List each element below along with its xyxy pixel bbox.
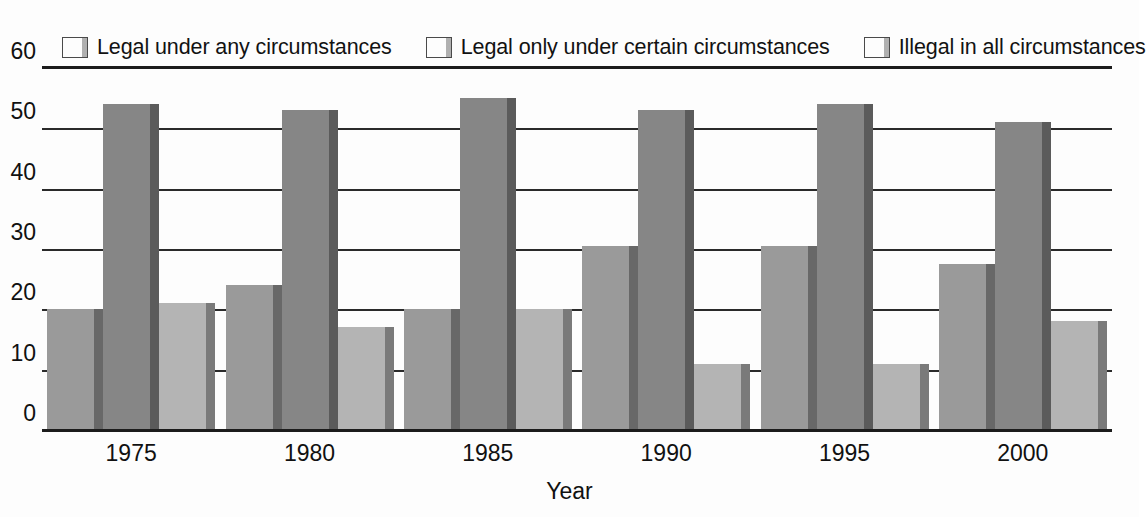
- bar-1990-series-2[interactable]: [638, 110, 694, 430]
- bar-1975-series-2[interactable]: [103, 104, 159, 430]
- legend-swatch-series-1-icon: [62, 37, 88, 58]
- bar-1985-series-2[interactable]: [460, 98, 516, 430]
- bar-2000-series-2[interactable]: [995, 122, 1051, 430]
- bar-1980-series-1[interactable]: [226, 285, 282, 430]
- bar-1995-series-1[interactable]: [761, 246, 817, 430]
- y-tick-label-10: 10: [0, 342, 36, 365]
- legend-swatch-series-2-icon: [426, 37, 452, 58]
- bar-1975-series-1[interactable]: [47, 309, 103, 430]
- chart-legend: Legal under any circumstances Legal only…: [62, 30, 1146, 64]
- legend-item-series-2[interactable]: Legal only under certain circumstances: [426, 35, 830, 60]
- y-tick-label-30: 30: [0, 221, 36, 244]
- legend-label-series-3: Illegal in all circumstances: [899, 35, 1146, 60]
- x-tick-label-1995: 1995: [785, 440, 905, 467]
- y-tick-label-50: 50: [0, 100, 36, 123]
- bar-group-1975: [47, 68, 215, 430]
- legend-item-series-1[interactable]: Legal under any circumstances: [62, 35, 392, 60]
- bar-group-1980: [226, 68, 394, 430]
- bar-1995-series-3[interactable]: [873, 364, 929, 430]
- bar-series-container: [42, 68, 1112, 430]
- bar-1990-series-1[interactable]: [582, 246, 638, 430]
- x-axis-title: Year: [0, 478, 1139, 505]
- bar-1980-series-2[interactable]: [282, 110, 338, 430]
- bar-1990-series-3[interactable]: [694, 364, 750, 430]
- legend-item-series-3[interactable]: Illegal in all circumstances: [864, 35, 1146, 60]
- bar-group-1990: [582, 68, 750, 430]
- y-tick-label-60: 60: [0, 40, 36, 63]
- x-tick-label-1975: 1975: [71, 440, 191, 467]
- bar-group-1995: [761, 68, 929, 430]
- y-tick-label-40: 40: [0, 161, 36, 184]
- y-tick-label-20: 20: [0, 281, 36, 304]
- legend-label-series-1: Legal under any circumstances: [97, 35, 392, 60]
- bar-1980-series-3[interactable]: [338, 327, 394, 430]
- bar-1975-series-3[interactable]: [159, 303, 215, 430]
- legend-swatch-series-3-icon: [864, 37, 890, 58]
- bar-2000-series-1[interactable]: [939, 264, 995, 430]
- x-axis-line: [42, 429, 1112, 432]
- bar-group-1985: [404, 68, 572, 430]
- bar-2000-series-3[interactable]: [1051, 321, 1107, 430]
- x-tick-label-1985: 1985: [428, 440, 548, 467]
- bar-group-2000: [939, 68, 1107, 430]
- legend-label-series-2: Legal only under certain circumstances: [461, 35, 830, 60]
- x-tick-label-1990: 1990: [606, 440, 726, 467]
- y-tick-label-0: 0: [0, 402, 36, 425]
- bar-1985-series-3[interactable]: [516, 309, 572, 430]
- bar-1995-series-2[interactable]: [817, 104, 873, 430]
- x-tick-label-2000: 2000: [963, 440, 1083, 467]
- x-tick-label-1980: 1980: [250, 440, 370, 467]
- bar-1985-series-1[interactable]: [404, 309, 460, 430]
